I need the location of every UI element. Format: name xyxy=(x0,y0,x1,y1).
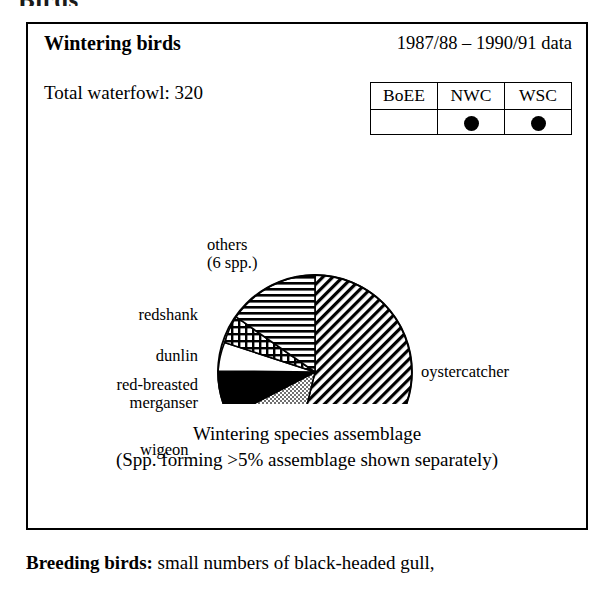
filled-dot-icon xyxy=(531,116,546,131)
cell-boee-mark xyxy=(371,110,438,135)
pie-label-dunlin: dunlin xyxy=(98,347,198,365)
table-row xyxy=(371,110,572,135)
table-header-row: BoEE NWC WSC xyxy=(371,83,572,110)
pie-label-oystercatcher: oystercatcher xyxy=(421,363,509,381)
chart-caption-main: Wintering species assemblage xyxy=(28,422,586,446)
cell-wsc-mark xyxy=(505,110,572,135)
breeding-birds-lead: Breeding birds: xyxy=(26,552,153,573)
survey-source-table: BoEE NWC WSC xyxy=(370,82,572,135)
page-top-heading: Birds xyxy=(18,0,79,6)
pie-label-redshank: redshank xyxy=(98,306,198,324)
page-title: Wintering birds xyxy=(44,32,181,55)
date-range-label: 1987/88 – 1990/91 data xyxy=(397,33,572,54)
pie-label-others: others (6 spp.) xyxy=(207,236,257,272)
column-header-wsc: WSC xyxy=(505,83,572,110)
empty-marker-icon xyxy=(397,116,412,131)
filled-dot-icon xyxy=(464,116,479,131)
total-waterfowl-label: Total waterfowl: 320 xyxy=(44,82,203,104)
column-header-nwc: NWC xyxy=(438,83,505,110)
breeding-birds-note: Breeding birds: small numbers of black-h… xyxy=(26,552,601,574)
pie-chart-area: others (6 spp.) redshank dunlin red-brea… xyxy=(28,144,586,404)
panel-header: Wintering birds 1987/88 – 1990/91 data xyxy=(28,24,586,68)
cell-nwc-mark xyxy=(438,110,505,135)
column-header-boee: BoEE xyxy=(371,83,438,110)
breeding-birds-text: small numbers of black-headed gull, xyxy=(153,552,435,573)
chart-caption-sub: (Spp. forming >5% assemblage shown separ… xyxy=(28,448,586,472)
pie-label-red-breasted-merganser: red-breasted merganser xyxy=(58,376,198,412)
wintering-birds-panel: Wintering birds 1987/88 – 1990/91 data T… xyxy=(26,22,588,530)
